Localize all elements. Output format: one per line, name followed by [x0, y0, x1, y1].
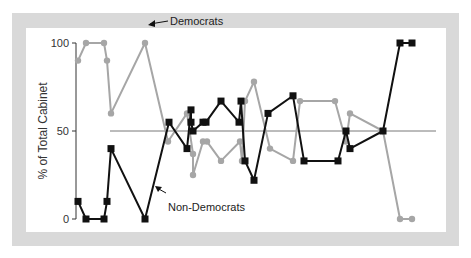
data-point: [409, 216, 415, 222]
data-point: [101, 40, 107, 46]
data-point: [190, 151, 196, 157]
data-point: [142, 216, 149, 223]
y-tick-50: 50: [57, 125, 69, 137]
data-point: [267, 145, 273, 151]
data-point: [108, 110, 114, 116]
arrow-icon: [148, 20, 155, 27]
data-point: [397, 40, 404, 47]
data-point: [301, 157, 308, 164]
data-point: [190, 172, 196, 178]
data-point: [290, 92, 297, 99]
data-point: [218, 98, 225, 105]
data-point: [142, 40, 148, 46]
y-axis-label: % of Total Cabinet: [36, 82, 50, 180]
data-point: [104, 57, 110, 63]
data-point: [203, 119, 210, 126]
data-point: [397, 216, 403, 222]
data-point: [190, 128, 197, 135]
data-point: [101, 216, 108, 223]
data-point: [409, 40, 416, 47]
democrats-label: Democrats: [170, 15, 224, 27]
data-point: [236, 119, 243, 126]
data-point: [380, 128, 387, 135]
non-democrats-label: Non-Democrats: [168, 201, 246, 213]
data-point: [204, 138, 210, 144]
data-point: [343, 128, 350, 135]
data-point: [332, 98, 338, 104]
data-point: [75, 57, 81, 63]
data-point: [188, 119, 195, 126]
data-point: [188, 106, 195, 113]
democrats-annotation: Democrats: [148, 15, 224, 27]
data-point: [104, 198, 111, 205]
data-point: [251, 79, 257, 85]
data-point: [83, 216, 90, 223]
data-point: [75, 198, 82, 205]
y-tick-100: 100: [51, 37, 69, 49]
data-point: [335, 157, 342, 164]
data-point: [218, 158, 224, 164]
line-chart: 100 50 0 % of Total Cabinet Democrats No…: [0, 0, 471, 258]
y-axis: 100 50 0 % of Total Cabinet: [36, 37, 76, 225]
data-point: [237, 138, 243, 144]
data-point: [290, 158, 296, 164]
data-point: [251, 177, 258, 184]
data-point: [184, 145, 191, 152]
data-point: [347, 110, 353, 116]
arrow-icon: [155, 186, 162, 192]
data-point: [166, 119, 173, 126]
data-point: [242, 157, 249, 164]
data-point: [297, 98, 303, 104]
data-point: [83, 40, 89, 46]
data-point: [265, 110, 272, 117]
data-point: [238, 98, 245, 105]
data-point: [108, 145, 115, 152]
data-point: [347, 145, 354, 152]
y-tick-0: 0: [63, 213, 69, 225]
non-democrats-annotation: Non-Democrats: [155, 186, 246, 213]
